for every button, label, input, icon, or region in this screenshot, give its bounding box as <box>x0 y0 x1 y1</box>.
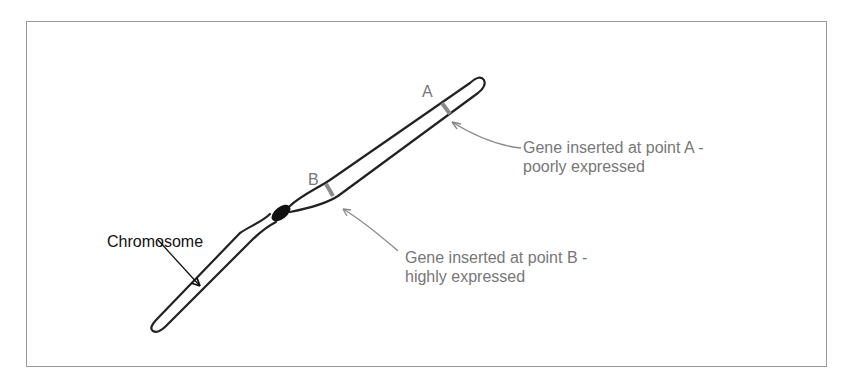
point-b-label: B <box>308 170 319 189</box>
chromosome-body <box>151 78 484 332</box>
annotation-a-line1: Gene inserted at point A - <box>523 138 704 157</box>
annotation-b: Gene inserted at point B - highly expres… <box>405 248 587 286</box>
gene-band-a <box>442 103 450 114</box>
annotation-a: Gene inserted at point A - poorly expres… <box>523 138 704 176</box>
chromosome-label: Chromosome <box>107 232 203 251</box>
arrow-a <box>452 122 521 148</box>
arrow-b <box>343 209 398 251</box>
gene-band-b <box>326 184 333 196</box>
chromosome-diagram <box>0 0 857 388</box>
annotation-b-line2: highly expressed <box>405 267 587 286</box>
annotation-b-line1: Gene inserted at point B - <box>405 248 587 267</box>
annotation-a-line2: poorly expressed <box>523 157 704 176</box>
point-a-label: A <box>422 82 433 101</box>
